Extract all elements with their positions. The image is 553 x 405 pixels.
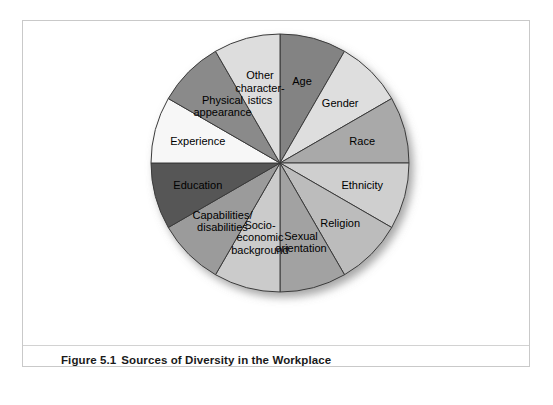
figure-caption-text: Sources of Diversity in the Workplace <box>121 354 331 366</box>
pie-chart: AgeGenderRaceEthnicityReligionSexual ori… <box>23 21 529 345</box>
figure-caption-number: Figure 5.1 <box>61 354 116 366</box>
caption-divider <box>23 345 529 346</box>
pie-slice-group <box>151 34 409 292</box>
figure-panel: AgeGenderRaceEthnicityReligionSexual ori… <box>22 20 530 367</box>
pie-chart-canvas: AgeGenderRaceEthnicityReligionSexual ori… <box>150 33 410 293</box>
pie-chart-svg <box>150 33 410 293</box>
figure-caption: Figure 5.1Sources of Diversity in the Wo… <box>61 354 331 366</box>
